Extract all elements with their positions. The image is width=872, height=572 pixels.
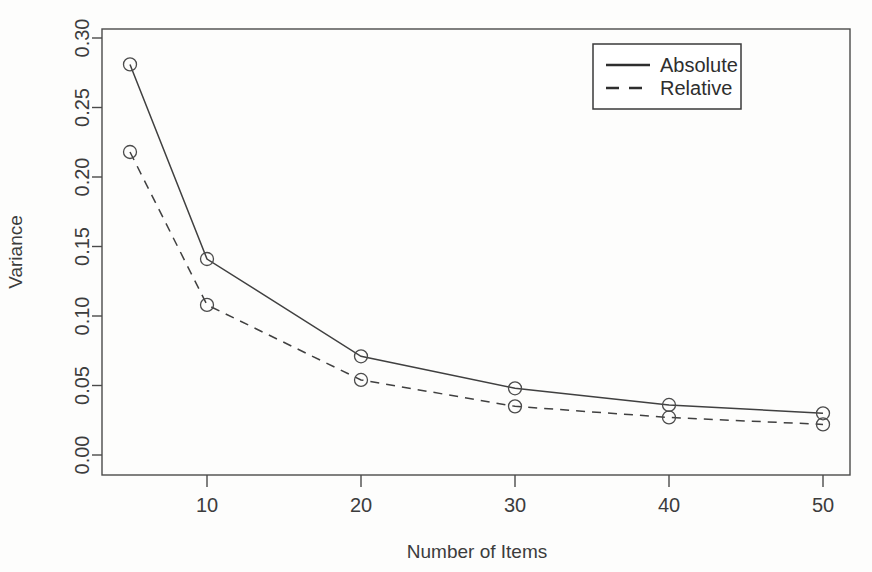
x-axis-ticks: [207, 475, 823, 487]
series-line-relative: [130, 152, 823, 424]
x-tick-label: 10: [196, 494, 218, 516]
y-tick-label: 0.05: [71, 366, 93, 405]
y-tick-label: 0.25: [71, 88, 93, 127]
y-tick-label: 0.10: [71, 297, 93, 336]
x-axis-title: Number of Items: [407, 541, 547, 562]
variance-line-chart: 0.30 0.25 0.20 0.15 0.10 0.05 0.00 10 20…: [0, 0, 872, 572]
legend: Absolute Relative: [593, 44, 741, 109]
y-axis-title: Variance: [5, 215, 26, 289]
y-tick-label: 0.30: [71, 19, 93, 58]
x-tick-label: 40: [658, 494, 680, 516]
y-tick-label: 0.20: [71, 158, 93, 197]
y-axis-ticks: [92, 38, 102, 455]
data-series-layer: [124, 58, 830, 431]
y-tick-label: 0.00: [71, 436, 93, 475]
y-tick-label: 0.15: [71, 227, 93, 266]
data-point: [201, 298, 214, 311]
legend-label-relative: Relative: [660, 77, 732, 99]
x-tick-label: 20: [350, 494, 372, 516]
x-tick-label: 30: [504, 494, 526, 516]
x-axis-tick-labels: 10 20 30 40 50: [196, 494, 834, 516]
y-axis-tick-labels: 0.30 0.25 0.20 0.15 0.10 0.05 0.00: [71, 19, 93, 475]
x-tick-label: 50: [812, 494, 834, 516]
series-line-absolute: [130, 64, 823, 413]
legend-label-absolute: Absolute: [660, 54, 738, 76]
chart-container: 0.30 0.25 0.20 0.15 0.10 0.05 0.00 10 20…: [0, 0, 872, 572]
